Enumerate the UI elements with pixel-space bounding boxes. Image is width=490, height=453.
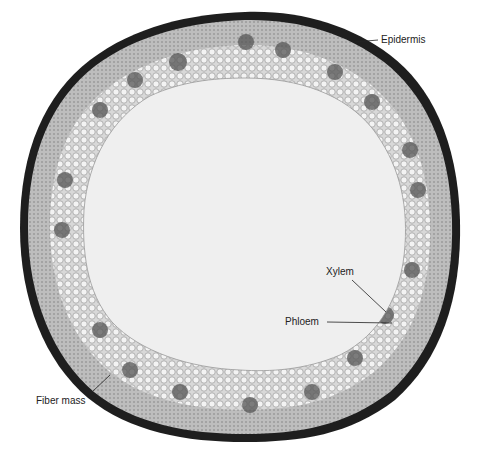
stem-cross-section-figure: Epidermis Xylem Phloem Fiber mass <box>0 0 490 453</box>
label-xylem: Xylem <box>326 267 354 277</box>
label-phloem: Phloem <box>285 317 319 327</box>
pith <box>84 78 406 371</box>
micrograph-image <box>0 0 490 453</box>
label-fiber-mass: Fiber mass <box>36 396 85 406</box>
label-epidermis: Epidermis <box>381 35 425 45</box>
